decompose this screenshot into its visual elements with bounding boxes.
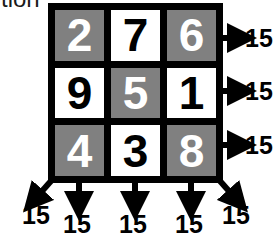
column-sum-label-3: 15 [175,212,203,237]
magic-cell-value: 6 [179,12,205,58]
row-sum-label-2: 15 [245,79,273,104]
magic-cell-r2c3: 1 [167,68,216,119]
magic-cell-r3c3: 8 [167,125,216,176]
column-sum-label-1: 15 [63,212,91,237]
magic-cell-r1c2: 7 [111,10,160,61]
magic-cell-r3c2: 3 [111,125,160,176]
magic-cell-r2c1: 9 [55,68,104,119]
diagonal-sum-label-left: 15 [22,203,50,228]
magic-cell-value: 8 [179,128,205,174]
arrow-down-right-icon-diagonal [220,181,236,199]
magic-cell-value: 3 [123,128,149,174]
magic-cell-value: 9 [67,70,93,116]
magic-cell-r1c3: 6 [167,10,216,61]
arrow-down-left-icon-diagonal [35,181,51,199]
magic-cell-r1c1: 2 [55,10,104,61]
magic-cell-value: 2 [67,12,93,58]
magic-cell-value: 4 [67,128,93,174]
row-sum-label-3: 15 [245,133,273,158]
magic-cell-r3c1: 4 [55,125,104,176]
row-sum-label-1: 15 [245,26,273,51]
magic-cell-r2c2: 5 [111,68,160,119]
diagonal-sum-label-right: 15 [222,203,250,228]
magic-cell-value: 5 [123,70,149,116]
magic-cell-value: 1 [179,70,205,116]
column-sum-label-2: 15 [119,212,147,237]
magic-square-grid: 2 7 6 9 5 1 4 3 8 [48,3,223,183]
caption-fragment: tion [1,0,40,12]
magic-cell-value: 7 [123,12,149,58]
